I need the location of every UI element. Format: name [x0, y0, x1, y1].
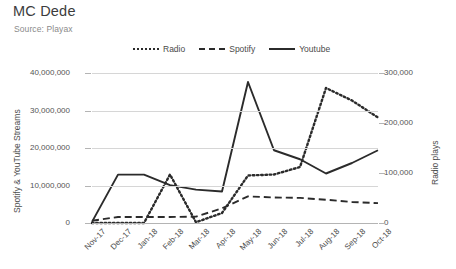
legend-swatch-spotify-icon: [199, 48, 225, 50]
y-axis-right-tick: 100,000: [384, 168, 444, 177]
plot-area: [92, 73, 378, 223]
legend-item-spotify[interactable]: Spotify: [199, 44, 255, 54]
y-axis-left-tickmark: [85, 186, 91, 187]
y-axis-right-tickmark: [379, 123, 385, 124]
gridline: [92, 73, 378, 74]
y-axis-left-tickmark: [85, 111, 91, 112]
y-axis-left-tick: 10,000,000: [10, 181, 70, 190]
y-axis-left-tick: 30,000,000: [10, 106, 70, 115]
y-axis-right-tick: 200,000: [384, 118, 444, 127]
legend-swatch-radio-icon: [133, 48, 159, 50]
legend-swatch-youtube-icon: [269, 48, 295, 50]
legend-label: Radio: [163, 44, 185, 54]
legend-item-radio[interactable]: Radio: [133, 44, 185, 54]
chart-title: MC Dede: [13, 3, 76, 19]
y-axis-left-tick: 0: [10, 218, 70, 227]
y-axis-left-title: Spotify & YouTube Streams: [12, 109, 22, 213]
chart-subtitle: Source: Playax: [14, 24, 73, 34]
y-axis-left-tick: 20,000,000: [10, 143, 70, 152]
y-axis-right-title: Radio plays: [430, 141, 440, 185]
y-axis-right-tick: 300,000: [384, 68, 444, 77]
gridline: [92, 111, 378, 112]
y-axis-right-tickmark: [379, 223, 385, 224]
series-line-spotify: [92, 196, 378, 220]
gridline: [92, 148, 378, 149]
legend-label: Spotify: [229, 44, 255, 54]
y-axis-left-tick: 40,000,000: [10, 68, 70, 77]
chart-container: MC Dede Source: Playax RadioSpotifyYoutu…: [0, 0, 456, 269]
legend-item-youtube[interactable]: Youtube: [269, 44, 330, 54]
gridline: [92, 186, 378, 187]
chart-legend: RadioSpotifyYoutube: [133, 44, 330, 54]
legend-label: Youtube: [299, 44, 330, 54]
y-axis-left-tickmark: [85, 223, 91, 224]
y-axis-right-tick: 0: [384, 218, 444, 227]
y-axis-right-tickmark: [379, 173, 385, 174]
y-axis-left-tickmark: [85, 73, 91, 74]
x-axis-line: [92, 223, 378, 224]
y-axis-right-tickmark: [379, 73, 385, 74]
y-axis-left-tickmark: [85, 148, 91, 149]
